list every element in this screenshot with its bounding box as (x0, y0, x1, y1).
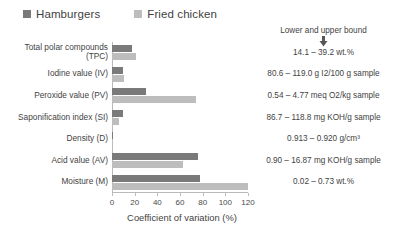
x-axis-tick (203, 193, 204, 196)
x-axis-tick-label: 40 (153, 198, 162, 207)
row-label: Peroxide value (PV) (34, 91, 108, 101)
bound-annotation: 80.6 – 119.0 g I2/100 g sample (244, 69, 403, 78)
x-axis-tick-label: 0 (110, 198, 114, 207)
row-label: Acid value (AV) (51, 156, 108, 166)
bar-hamburgers (112, 110, 123, 117)
x-axis-tick (157, 193, 158, 196)
x-axis-tick-label: 100 (219, 198, 232, 207)
legend-swatch-fried-chicken (134, 10, 142, 18)
row-label: Density (D) (67, 134, 109, 144)
x-axis-tick-label: 60 (176, 198, 185, 207)
bounds-header: Lower and upper bound (244, 26, 403, 35)
legend-item-hamburgers: Hamburgers (23, 8, 100, 20)
x-axis-tick (180, 193, 181, 196)
x-axis-tick (248, 193, 249, 196)
row-label: Total polar compounds (TPC) (25, 43, 108, 62)
bar-fried-chicken (112, 96, 196, 103)
x-axis-tick (135, 193, 136, 196)
x-axis-tick-label: 20 (130, 198, 139, 207)
bound-annotation: 0.02 – 0.73 wt.% (244, 177, 403, 186)
bar-fried-chicken (112, 161, 183, 168)
bound-annotation: 86.7 – 118.8 mg KOH/g sample (244, 113, 403, 122)
bar-fried-chicken (112, 183, 248, 190)
x-axis-tick (225, 193, 226, 196)
x-axis-title: Coefficient of variation (%) (62, 212, 302, 223)
bar-hamburgers (112, 45, 132, 52)
bound-annotation: 0.913 – 0.920 g/cm³ (244, 134, 403, 143)
bound-annotation: 0.54 – 4.77 meq O2/kg sample (244, 91, 403, 100)
x-axis-tick-label: 120 (241, 198, 254, 207)
chart-legend: Hamburgers Fried chicken (0, 4, 240, 24)
legend-item-fried-chicken: Fried chicken (134, 8, 217, 20)
bar-fried-chicken (112, 75, 124, 82)
row-label: Moisture (M) (61, 177, 108, 187)
legend-label-fried-chicken: Fried chicken (147, 8, 217, 20)
bar-fried-chicken (112, 140, 113, 147)
row-label: Iodine value (IV) (48, 69, 108, 79)
legend-label-hamburgers: Hamburgers (36, 8, 100, 20)
row-label: Saponification index (SI) (18, 113, 108, 123)
bar-hamburgers (112, 175, 200, 182)
bar-fried-chicken (112, 53, 136, 60)
bound-annotation: 14.1 – 39.2 wt.% (244, 48, 403, 57)
bar-hamburgers (112, 153, 198, 160)
arrow-down-glyph (319, 36, 328, 47)
bar-fried-chicken (112, 118, 119, 125)
bar-hamburgers (112, 132, 113, 139)
bar-hamburgers (112, 67, 123, 74)
x-axis-tick (112, 193, 113, 196)
legend-swatch-hamburgers (23, 10, 31, 18)
x-axis-tick-label: 80 (198, 198, 207, 207)
bound-annotation: 0.90 – 16.87 mg KOH/g sample (244, 156, 403, 165)
bar-hamburgers (112, 88, 146, 95)
